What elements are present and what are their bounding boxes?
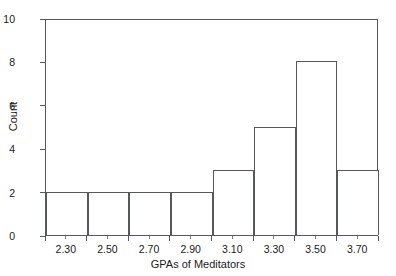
histogram-bar bbox=[46, 192, 88, 235]
x-axis-minor-tick bbox=[315, 236, 316, 239]
x-axis-major-tick bbox=[336, 236, 337, 241]
x-axis-tick-label: 3.10 bbox=[222, 244, 242, 255]
bars-group bbox=[46, 20, 377, 235]
x-axis-major-tick bbox=[294, 236, 295, 241]
x-axis-minor-tick bbox=[190, 236, 191, 239]
x-axis-tick-label: 2.50 bbox=[97, 244, 117, 255]
histogram-bar bbox=[213, 170, 255, 235]
y-axis-tick-label: 6 bbox=[9, 101, 15, 112]
x-axis-major-tick bbox=[169, 236, 170, 241]
x-axis-tick-label: 3.30 bbox=[264, 244, 284, 255]
histogram-bar bbox=[129, 192, 171, 235]
x-axis-minor-tick bbox=[357, 236, 358, 239]
x-axis-minor-tick bbox=[273, 236, 274, 239]
histogram-bar bbox=[337, 170, 379, 235]
x-axis-major-tick bbox=[86, 236, 87, 241]
histogram-bar bbox=[171, 192, 213, 235]
y-axis: Count 0246810 bbox=[0, 0, 45, 276]
x-axis-major-tick bbox=[253, 236, 254, 241]
x-axis-tick-label: 2.90 bbox=[180, 244, 200, 255]
x-axis-minor-tick bbox=[65, 236, 66, 239]
x-axis-minor-tick bbox=[107, 236, 108, 239]
y-axis-tick-label: 8 bbox=[9, 57, 15, 68]
x-axis-major-tick bbox=[45, 236, 46, 241]
x-axis-minor-tick bbox=[232, 236, 233, 239]
plot-area bbox=[45, 19, 378, 236]
x-axis-tick-label: 2.70 bbox=[139, 244, 159, 255]
x-axis-title: GPAs of Meditators bbox=[0, 259, 396, 270]
histogram-figure: Count 0246810 GPAs of Meditators 2.302.5… bbox=[0, 0, 396, 276]
x-axis-major-tick bbox=[128, 236, 129, 241]
histogram-bar bbox=[254, 127, 296, 236]
x-axis-tick-label: 2.30 bbox=[56, 244, 76, 255]
x-axis-tick-label: 3.70 bbox=[347, 244, 367, 255]
x-axis-minor-tick bbox=[149, 236, 150, 239]
x-axis-tick-label: 3.50 bbox=[305, 244, 325, 255]
y-axis-tick-label: 10 bbox=[3, 14, 15, 25]
x-axis-major-tick bbox=[211, 236, 212, 241]
y-axis-title: Count bbox=[8, 87, 19, 147]
y-axis-tick-label: 2 bbox=[9, 188, 15, 199]
x-axis-major-tick bbox=[378, 236, 379, 241]
histogram-bar bbox=[88, 192, 130, 235]
x-axis: GPAs of Meditators 2.302.502.702.903.103… bbox=[0, 236, 396, 276]
y-axis-tick-label: 4 bbox=[9, 144, 15, 155]
histogram-bar bbox=[296, 61, 338, 235]
